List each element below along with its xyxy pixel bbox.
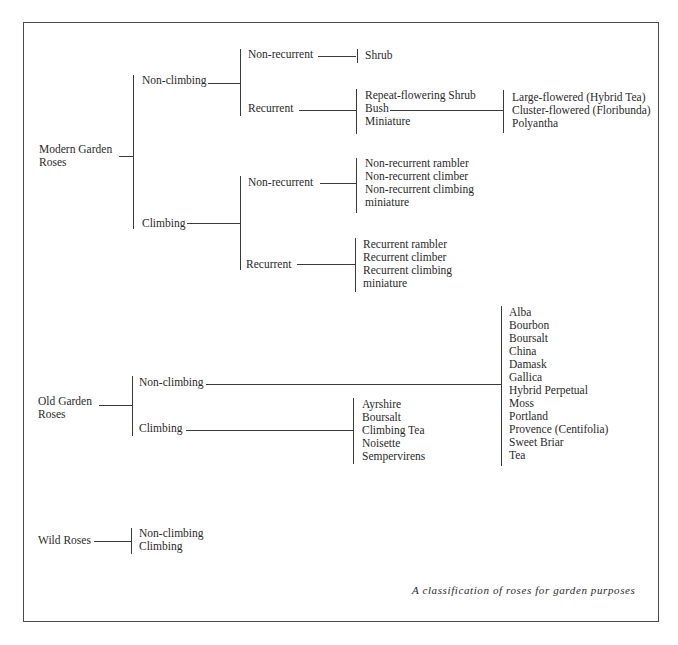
connector: [206, 384, 501, 385]
connector: [208, 83, 240, 84]
modern-climbing-label: Climbing: [142, 217, 185, 230]
old-c-item: Ayrshire: [362, 398, 401, 411]
bush-type-item: Large-flowered (Hybrid Tea): [512, 91, 646, 104]
modern-c-non-recurrent-label: Non-recurrent: [248, 176, 313, 189]
bracket: [240, 49, 241, 116]
connector: [390, 110, 503, 111]
old-nc-item: China: [509, 345, 536, 358]
old-non-climbing-label: Non-climbing: [139, 376, 204, 389]
connector: [119, 156, 133, 157]
old-nc-item: Sweet Briar: [509, 436, 564, 449]
bush-type-item: Polyantha: [512, 117, 558, 130]
old-climbing-label: Climbing: [139, 422, 182, 435]
old-nc-item: Hybrid Perpetual: [509, 384, 588, 397]
old-garden-roses-label-2: Roses: [38, 408, 65, 421]
connector: [299, 110, 356, 111]
old-nc-item: Moss: [509, 397, 534, 410]
wild-item: Non-climbing: [139, 527, 204, 540]
recurrent-item: Bush: [365, 102, 389, 115]
old-garden-roses-label-1: Old Garden: [38, 395, 92, 408]
bracket: [503, 90, 504, 133]
old-c-item: Boursalt: [362, 411, 401, 424]
wild-roses-label: Wild Roses: [38, 534, 91, 547]
bracket: [355, 238, 356, 292]
climbing-r-item: Recurrent climber: [363, 251, 446, 264]
climbing-nr-item: Non-recurrent climbing: [365, 183, 474, 196]
old-c-item: Climbing Tea: [362, 424, 425, 437]
bracket: [501, 306, 502, 466]
old-nc-item: Provence (Centifolia): [509, 423, 608, 436]
recurrent-item: Repeat-flowering Shrub: [365, 89, 476, 102]
bracket: [133, 75, 134, 229]
old-c-item: Sempervirens: [362, 450, 425, 463]
old-nc-item: Damask: [509, 358, 547, 371]
recurrent-item: Miniature: [365, 115, 410, 128]
connector: [186, 430, 353, 431]
connector: [297, 264, 356, 265]
modern-c-recurrent-label: Recurrent: [246, 258, 291, 271]
climbing-nr-item: Non-recurrent rambler: [365, 157, 469, 170]
bush-type-item: Cluster-flowered (Floribunda): [512, 104, 651, 117]
bracket: [240, 176, 241, 270]
shrub-item: Shrub: [365, 49, 392, 62]
modern-nc-non-recurrent-label: Non-recurrent: [248, 48, 313, 61]
old-nc-item: Alba: [509, 306, 531, 319]
old-nc-item: Bourbon: [509, 319, 549, 332]
bracket: [353, 398, 354, 464]
wild-item: Climbing: [139, 540, 182, 553]
bracket: [131, 528, 132, 554]
bracket: [356, 89, 357, 134]
old-c-item: Noisette: [362, 437, 400, 450]
connector: [318, 56, 356, 57]
connector: [187, 223, 240, 224]
bracket: [132, 376, 133, 436]
modern-garden-roses-label-1: Modern Garden: [39, 143, 112, 156]
old-nc-item: Portland: [509, 410, 548, 423]
connector: [99, 405, 132, 406]
climbing-r-item: Recurrent rambler: [363, 238, 447, 251]
climbing-nr-item: miniature: [365, 196, 409, 209]
bracket: [356, 158, 357, 213]
connector: [320, 183, 356, 184]
old-nc-item: Boursalt: [509, 332, 548, 345]
modern-nc-recurrent-label: Recurrent: [248, 102, 293, 115]
old-nc-item: Tea: [509, 449, 525, 462]
climbing-nr-item: Non-recurrent climber: [365, 170, 468, 183]
figure-caption: A classification of roses for garden pur…: [412, 584, 635, 596]
modern-garden-roses-label-2: Roses: [39, 156, 66, 169]
climbing-r-item: Recurrent climbing: [363, 264, 452, 277]
climbing-r-item: miniature: [363, 277, 407, 290]
modern-non-climbing-label: Non-climbing: [142, 74, 207, 87]
old-nc-item: Gallica: [509, 371, 542, 384]
bracket: [357, 49, 358, 63]
connector: [94, 541, 131, 542]
